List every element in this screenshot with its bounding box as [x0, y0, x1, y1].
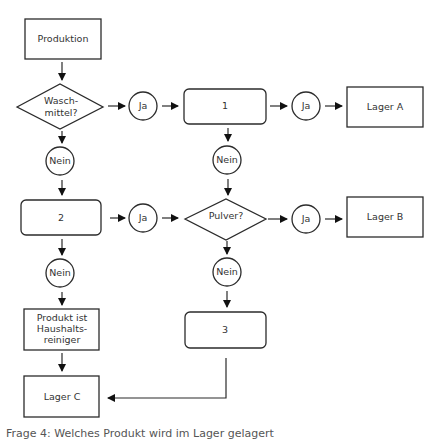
- node-lager-a: Lager A: [347, 87, 423, 127]
- node-ja-1: Ja: [129, 92, 157, 120]
- node-label: Nein: [216, 266, 238, 277]
- node-label: Produkt ist: [37, 312, 88, 323]
- node-label: Wasch-: [44, 95, 78, 106]
- node-label: 2: [58, 212, 64, 223]
- node-label: Ja: [138, 212, 148, 223]
- node-box-1: 1: [184, 89, 266, 124]
- node-label: Pulver?: [209, 210, 244, 221]
- caption: Frage 4: Welches Produkt wird im Lager g…: [6, 427, 274, 440]
- node-nein-4: Nein: [213, 258, 241, 286]
- node-haushaltsreiniger: Produkt ist Haushalts- reiniger: [24, 309, 99, 350]
- node-box-2: 2: [21, 200, 101, 235]
- node-label: Lager C: [44, 391, 81, 402]
- node-label: 1: [222, 100, 228, 111]
- node-label: Nein: [49, 267, 71, 278]
- node-label: reiniger: [44, 334, 81, 345]
- node-label: Lager A: [367, 101, 404, 112]
- node-nein-3: Nein: [46, 259, 74, 287]
- node-label: Produktion: [38, 33, 89, 44]
- node-ja-2: Ja: [292, 92, 320, 120]
- node-label: 3: [222, 324, 228, 335]
- node-nein-1: Nein: [46, 147, 74, 175]
- node-ja-4: Ja: [292, 205, 320, 233]
- node-pulver-decision: Pulver?: [185, 199, 266, 240]
- node-nein-2: Nein: [213, 146, 241, 174]
- node-lager-c: Lager C: [24, 376, 99, 417]
- node-label: Nein: [49, 155, 71, 166]
- node-label: Haushalts-: [37, 323, 88, 334]
- node-box-3: 3: [185, 312, 266, 348]
- node-label: Ja: [301, 100, 311, 111]
- node-waschmittel-decision: Wasch- mittel?: [17, 84, 103, 129]
- node-produktion: Produktion: [25, 19, 101, 59]
- node-label: mittel?: [45, 107, 78, 118]
- node-lager-b: Lager B: [347, 197, 423, 237]
- node-ja-3: Ja: [129, 204, 157, 232]
- node-label: Ja: [301, 213, 311, 224]
- node-label: Lager B: [367, 211, 403, 222]
- node-label: Nein: [216, 154, 238, 165]
- node-label: Ja: [138, 100, 148, 111]
